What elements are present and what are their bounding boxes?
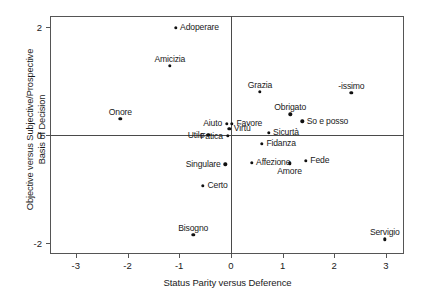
data-point-label: Sicurtà — [273, 127, 299, 137]
x-tick--3 — [76, 254, 77, 258]
y-tick-label-2: 2 — [22, 21, 42, 32]
x-tick-1 — [283, 254, 284, 258]
x-tick-0 — [231, 254, 232, 258]
data-point-label: Obrigato — [274, 102, 306, 112]
data-point-label: Certo — [207, 180, 227, 190]
x-tick-3 — [386, 254, 387, 258]
data-point-label: So e posso — [307, 116, 349, 126]
x-tick-label-0: 0 — [228, 260, 233, 271]
data-point-label: Amicizia — [154, 54, 185, 64]
y-tick-label--2: -2 — [22, 238, 42, 249]
data-point-label: Fede — [310, 155, 329, 165]
x-tick-label-2: 2 — [332, 260, 337, 271]
data-point-label: Aiuto — [203, 118, 222, 128]
data-point-label: Fidanza — [266, 138, 296, 148]
data-point-label: Fatica — [200, 131, 223, 141]
y-tick--2 — [46, 243, 50, 244]
x-tick--1 — [179, 254, 180, 258]
data-point-label: Onore — [109, 107, 132, 117]
x-tick-label-3: 3 — [383, 260, 388, 271]
data-point-label: Virtù — [234, 123, 251, 133]
data-point-label: Amore — [277, 166, 302, 176]
y-tick-label-0: 0 — [22, 130, 42, 141]
x-tick-label-1: 1 — [280, 260, 285, 271]
scatter-plot-figure: Objective versus Subjective/Prospective … — [0, 0, 422, 299]
x-tick-2 — [334, 254, 335, 258]
data-point-label: Bisogno — [178, 223, 208, 233]
data-point-label: Grazia — [248, 80, 272, 90]
x-axis-title: Status Parity versus Deference — [50, 277, 405, 288]
x-tick-label--1: -1 — [175, 260, 183, 271]
reference-line-vertical — [231, 16, 232, 254]
data-point-label: Servigio — [370, 227, 400, 237]
data-point-label: Singulare — [186, 159, 221, 169]
x-tick-label--2: -2 — [123, 260, 131, 271]
data-point-label: Adoperare — [180, 22, 219, 32]
data-point-label: -issimo — [338, 81, 364, 91]
y-tick-0 — [46, 135, 50, 136]
x-tick-label--3: -3 — [72, 260, 80, 271]
x-tick--2 — [128, 254, 129, 258]
y-tick-2 — [46, 27, 50, 28]
